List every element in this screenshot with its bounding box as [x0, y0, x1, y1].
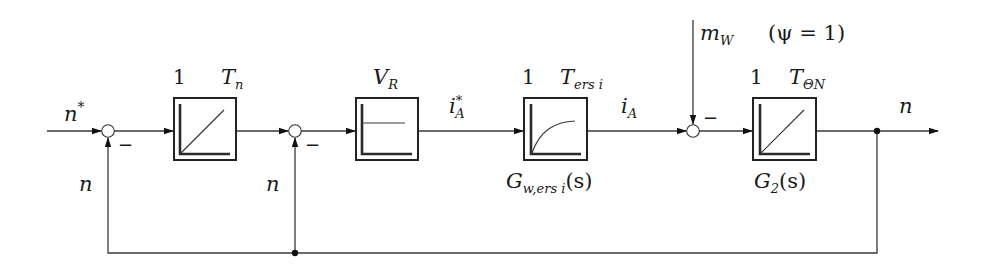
label-feedback-n-inner: n — [266, 172, 280, 196]
block4-time-constant: TΘN — [789, 65, 826, 92]
label-current-ref: i*A — [449, 93, 465, 121]
label-output-n: n — [899, 94, 913, 118]
block4-gain: 1 — [750, 65, 763, 89]
label-feedback-n-outer: n — [79, 172, 93, 196]
label-disturbance-mw: mW — [700, 21, 735, 48]
block-integrator-plant — [753, 98, 816, 160]
block2-gain-vr: VR — [373, 65, 398, 92]
block3-transfer-function: Gw,ers i(s) — [506, 169, 593, 196]
block3-gain: 1 — [522, 65, 535, 89]
block-integrator-tn — [174, 98, 236, 160]
label-current: iA — [621, 94, 637, 121]
minus-sign-2: − — [305, 134, 320, 155]
block-pt1-current-loop — [524, 98, 587, 160]
summing-junction-1 — [102, 125, 115, 138]
summing-junction-3 — [687, 125, 700, 138]
summing-junction-2 — [289, 125, 302, 138]
block-diagram: − − − n* n n 1 Tn VR i*A 1 Ters i Gw,ers… — [0, 0, 983, 271]
block-proportional-vr — [356, 98, 418, 160]
block4-transfer-function: G2(s) — [754, 169, 806, 196]
branch-point-output — [874, 128, 880, 134]
minus-sign-1: − — [118, 134, 133, 155]
block1-time-constant: Tn — [221, 65, 243, 92]
minus-sign-3: − — [703, 107, 718, 128]
block3-time-constant: Ters i — [560, 65, 603, 92]
block1-gain: 1 — [173, 65, 186, 89]
label-psi-condition: (ψ = 1) — [768, 21, 845, 45]
label-input-n-star: n* — [64, 99, 85, 126]
branch-point-feedback — [292, 250, 298, 256]
